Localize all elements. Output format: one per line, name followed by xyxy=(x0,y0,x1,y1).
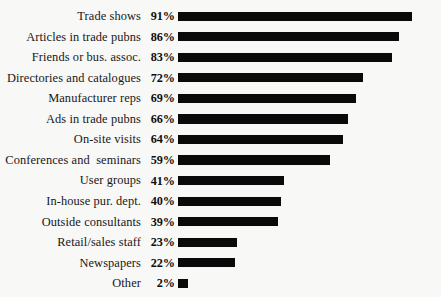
bar-value-label: 83% xyxy=(141,51,178,63)
bar xyxy=(178,217,278,226)
bar-value-label: 39% xyxy=(141,216,178,228)
chart-row: In-house pur. dept.40% xyxy=(0,191,441,212)
bar-category-label: Manufacturer reps xyxy=(0,92,141,104)
bar-track xyxy=(178,273,441,294)
bar xyxy=(178,94,356,103)
chart-row: On-site visits64% xyxy=(0,129,441,150)
bar-category-label: User groups xyxy=(0,174,141,186)
chart-row: Manufacturer reps69% xyxy=(0,88,441,109)
bar-track xyxy=(178,232,441,253)
chart-row: User groups41% xyxy=(0,170,441,191)
bar-category-label: Retail/sales staff xyxy=(0,236,141,248)
bar xyxy=(178,53,392,62)
bar-value-label: 91% xyxy=(141,10,178,22)
bar xyxy=(178,12,412,21)
bar-category-label: Outside consultants xyxy=(0,216,141,228)
bar-track xyxy=(178,170,441,191)
bar xyxy=(178,114,348,123)
bar-value-label: 72% xyxy=(141,72,178,84)
bar-value-label: 41% xyxy=(141,175,178,187)
bar-track xyxy=(178,88,441,109)
chart-row: Trade shows91% xyxy=(0,6,441,27)
chart-rows: Trade shows91%Articles in trade pubns86%… xyxy=(0,6,441,294)
bar-track xyxy=(178,6,441,27)
bar xyxy=(178,176,284,185)
bar-category-label: Trade shows xyxy=(0,10,141,22)
chart-row: Conferences and seminars59% xyxy=(0,150,441,171)
bar-track xyxy=(178,253,441,274)
bar-track xyxy=(178,150,441,171)
bar xyxy=(178,135,343,144)
bar-chart: Trade shows91%Articles in trade pubns86%… xyxy=(0,0,441,297)
bar-category-label: In-house pur. dept. xyxy=(0,195,141,207)
bar-value-label: 40% xyxy=(141,195,178,207)
bar-track xyxy=(178,47,441,68)
chart-row: Articles in trade pubns86% xyxy=(0,27,441,48)
bar-value-label: 2% xyxy=(141,277,178,289)
bar-category-label: Directories and catalogues xyxy=(0,72,141,84)
chart-row: Outside consultants39% xyxy=(0,211,441,232)
bar xyxy=(178,238,237,247)
bar-category-label: Articles in trade pubns xyxy=(0,31,141,43)
bar-track xyxy=(178,27,441,48)
bar xyxy=(178,73,363,82)
bar-value-label: 86% xyxy=(141,31,178,43)
bar-category-label: On-site visits xyxy=(0,133,141,145)
bar-category-label: Other xyxy=(0,277,141,289)
bar-track xyxy=(178,191,441,212)
bar-track xyxy=(178,109,441,130)
bar-track xyxy=(178,211,441,232)
bar-value-label: 69% xyxy=(141,92,178,104)
bar-category-label: Conferences and seminars xyxy=(0,154,141,166)
bar xyxy=(178,197,281,206)
chart-row: Ads in trade pubns66% xyxy=(0,109,441,130)
chart-row: Friends or bus. assoc.83% xyxy=(0,47,441,68)
bar-track xyxy=(178,129,441,150)
chart-row: Other2% xyxy=(0,273,441,294)
bar-category-label: Ads in trade pubns xyxy=(0,113,141,125)
bar-category-label: Friends or bus. assoc. xyxy=(0,51,141,63)
bar xyxy=(178,155,330,164)
chart-row: Directories and catalogues72% xyxy=(0,68,441,89)
bar-value-label: 59% xyxy=(141,154,178,166)
bar xyxy=(178,32,399,41)
bar-value-label: 66% xyxy=(141,113,178,125)
bar xyxy=(178,279,188,288)
bar-value-label: 22% xyxy=(141,257,178,269)
bar-value-label: 64% xyxy=(141,133,178,145)
bar-value-label: 23% xyxy=(141,236,178,248)
chart-row: Newspapers22% xyxy=(0,253,441,274)
bar xyxy=(178,258,235,267)
bar-category-label: Newspapers xyxy=(0,257,141,269)
bar-track xyxy=(178,68,441,89)
chart-row: Retail/sales staff23% xyxy=(0,232,441,253)
